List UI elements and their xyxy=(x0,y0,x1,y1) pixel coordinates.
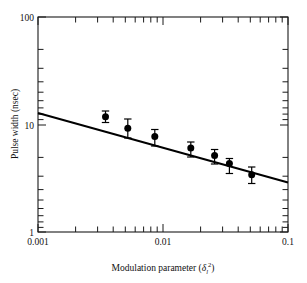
y-axis-tick-labels: 100 10 1 xyxy=(20,13,35,238)
x-axis-title: Modulation parameter (δl2) xyxy=(112,261,215,275)
figure-container: 100 10 1 0.001 0.01 0.1 Pulse width (nse… xyxy=(0,0,307,283)
x-tick-label: 0.001 xyxy=(27,237,49,247)
x-axis-major-ticks xyxy=(38,17,288,232)
x-axis-title-text: Modulation parameter (δl2) xyxy=(112,261,215,275)
y-tick-label: 100 xyxy=(20,13,35,23)
y-axis-minor-ticks xyxy=(38,49,288,227)
data-point xyxy=(102,111,109,123)
y-axis-title: Pulse width (nsec) xyxy=(10,89,21,159)
data-point xyxy=(151,130,158,147)
data-series-measured xyxy=(102,111,256,184)
data-point xyxy=(124,119,131,138)
y-axis-title-text: Pulse width (nsec) xyxy=(10,89,21,159)
plot-frame xyxy=(38,17,288,232)
x-axis-tick-labels: 0.001 0.01 0.1 xyxy=(27,237,294,247)
delta-subscript: l xyxy=(206,268,208,275)
x-tick-label: 0.01 xyxy=(155,237,172,247)
y-tick-label: 1 xyxy=(29,228,34,238)
x-tick-label: 0.1 xyxy=(282,237,294,247)
x-axis-title-close: ) xyxy=(211,263,214,274)
pulse-width-log-log-chart: 100 10 1 0.001 0.01 0.1 Pulse width (nse… xyxy=(0,0,307,283)
y-axis-major-ticks xyxy=(38,17,288,232)
x-axis-minor-ticks xyxy=(76,17,283,232)
y-tick-label: 10 xyxy=(25,121,35,131)
x-axis-title-main: Modulation parameter ( xyxy=(112,263,202,274)
data-point xyxy=(248,167,255,184)
